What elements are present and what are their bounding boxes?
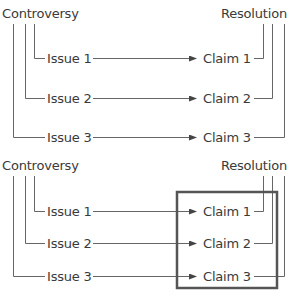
controversy-label: Controversy — [2, 159, 79, 172]
claim-label: Claim 2 — [203, 237, 251, 250]
claim-label: Claim 1 — [203, 205, 251, 218]
issue-to-claim-arrows-2 — [93, 212, 196, 277]
issue-label: Issue 1 — [47, 205, 92, 218]
controversy-bracket-lines — [14, 24, 46, 138]
claim-label: Claim 2 — [203, 92, 251, 105]
claim-label: Claim 3 — [203, 270, 251, 283]
issue-label: Issue 2 — [47, 92, 92, 105]
controversy-bracket-lines-2 — [14, 176, 46, 277]
resolution-label: Resolution — [221, 159, 287, 172]
resolution-bracket-lines — [254, 24, 285, 138]
issue-to-claim-arrows — [93, 59, 196, 138]
resolution-label: Resolution — [221, 7, 287, 20]
controversy-label: Controversy — [2, 7, 79, 20]
issue-label: Issue 2 — [47, 237, 92, 250]
claim-label: Claim 3 — [203, 131, 251, 144]
issue-label: Issue 3 — [47, 270, 92, 283]
issue-label: Issue 3 — [47, 131, 92, 144]
claim-label: Claim 1 — [203, 52, 251, 65]
issue-label: Issue 1 — [47, 52, 92, 65]
